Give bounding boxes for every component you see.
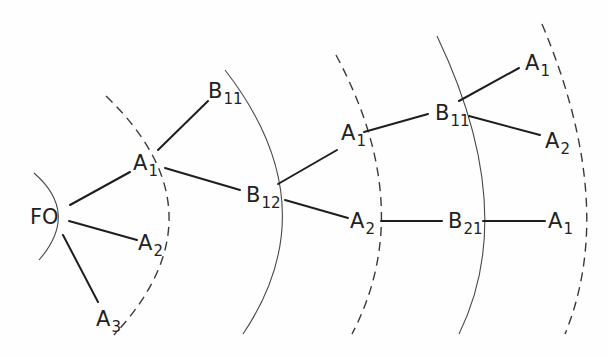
- edge-fo-a1: [70, 172, 130, 205]
- node-subscript: 1: [356, 132, 366, 150]
- node-subscript: 3: [111, 318, 121, 336]
- node-subscript: 21: [463, 220, 482, 238]
- tree-diagram: FOA1B11A2A3B12A1A2B11B21A1A2A1: [0, 0, 608, 357]
- edge-a1-b12: [165, 168, 240, 190]
- edge-b11-a2: [469, 116, 540, 135]
- node-b21: B21: [448, 209, 483, 238]
- node-subscript: 2: [153, 242, 163, 260]
- node-fo: FO: [30, 205, 59, 229]
- node-subscript: 2: [365, 220, 375, 238]
- node-subscript: 1: [148, 162, 158, 180]
- edge-b11-a1: [459, 68, 519, 101]
- node-a2: A2: [138, 231, 163, 260]
- node-a3: A3: [96, 307, 121, 336]
- edges-layer: [63, 68, 545, 302]
- node-subscript: 11: [450, 112, 469, 130]
- node-b11: B11: [208, 79, 243, 108]
- node-b11: B11: [435, 101, 470, 130]
- node-a1: A1: [341, 121, 366, 150]
- node-subscript: 11: [223, 90, 242, 108]
- edge-a1-b11: [158, 101, 208, 150]
- edge-fo-a3: [63, 235, 98, 302]
- edge-fo-a2: [69, 221, 137, 240]
- node-b12: B12: [246, 183, 281, 212]
- node-a1: A1: [548, 209, 573, 238]
- edge-b12-a1: [278, 150, 337, 184]
- node-subscript: 12: [261, 194, 280, 212]
- arc-4-solid-arc: [437, 36, 485, 334]
- nodes-layer: FOA1B11A2A3B12A1A2B11B21A1A2A1: [30, 51, 573, 336]
- edge-a1-b11: [364, 114, 428, 132]
- diagram-canvas: FOA1B11A2A3B12A1A2B11B21A1A2A1: [0, 0, 608, 357]
- node-subscript: 1: [540, 62, 550, 80]
- node-a2: A2: [545, 129, 570, 158]
- node-subscript: 2: [560, 140, 570, 158]
- node-subscript: 1: [563, 220, 573, 238]
- node-a1: A1: [525, 51, 550, 80]
- edge-b12-a2: [285, 200, 348, 218]
- node-a2: A2: [350, 209, 375, 238]
- arc-3-dashed-arc: [336, 55, 381, 334]
- arc-1-dashed-arc: [106, 96, 169, 335]
- node-a1: A1: [133, 151, 158, 180]
